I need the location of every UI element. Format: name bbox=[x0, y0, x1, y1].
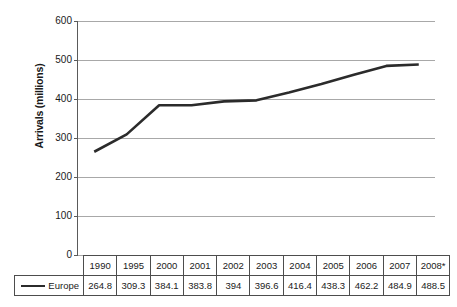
table-header-year: 2007 bbox=[383, 256, 416, 276]
table-cell-value: 416.4 bbox=[283, 276, 316, 296]
legend-label: Europe bbox=[48, 280, 79, 291]
table-header-year: 2003 bbox=[250, 256, 283, 276]
table-cell-value: 309.3 bbox=[117, 276, 150, 296]
table-cell-value: 462.2 bbox=[350, 276, 383, 296]
table-corner-blank bbox=[15, 256, 84, 276]
table-header-year: 1995 bbox=[117, 256, 150, 276]
table-header-year: 2002 bbox=[217, 256, 250, 276]
table-cell-value: 394 bbox=[217, 276, 250, 296]
table-cell-value: 488.5 bbox=[416, 276, 449, 296]
y-tick-label: 200 bbox=[42, 172, 72, 182]
table-row-europe: Europe 264.8 309.3 384.1 383.8 394 396.6… bbox=[15, 276, 450, 296]
table-cell-value: 484.9 bbox=[383, 276, 416, 296]
legend-line-swatch-icon bbox=[21, 285, 45, 288]
table-header-year: 2008* bbox=[416, 256, 449, 276]
legend-entry-europe: Europe bbox=[15, 276, 84, 296]
table-cell-value: 384.1 bbox=[150, 276, 183, 296]
series-line-europe bbox=[78, 21, 435, 255]
table-header-year: 2000 bbox=[150, 256, 183, 276]
y-tick-label: 600 bbox=[42, 16, 72, 26]
y-tick-label: 500 bbox=[42, 55, 72, 65]
table-header-year: 2005 bbox=[317, 256, 350, 276]
plot-area bbox=[78, 21, 435, 255]
table-cell-value: 383.8 bbox=[183, 276, 216, 296]
table-cell-value: 438.3 bbox=[317, 276, 350, 296]
table-header-year: 1990 bbox=[84, 256, 117, 276]
y-tick-label: 400 bbox=[42, 94, 72, 104]
table-cell-value: 396.6 bbox=[250, 276, 283, 296]
y-tick-label: 300 bbox=[42, 133, 72, 143]
y-tick-label: 100 bbox=[42, 211, 72, 221]
table-row-years: 1990 1995 2000 2001 2002 2003 2004 2005 … bbox=[15, 256, 450, 276]
table-header-year: 2006 bbox=[350, 256, 383, 276]
chart-figure: Arrivals (millions) 600 500 400 300 200 … bbox=[0, 0, 457, 307]
table-cell-value: 264.8 bbox=[84, 276, 117, 296]
table-header-year: 2001 bbox=[183, 256, 216, 276]
table-header-year: 2004 bbox=[283, 256, 316, 276]
data-table: 1990 1995 2000 2001 2002 2003 2004 2005 … bbox=[14, 255, 450, 296]
